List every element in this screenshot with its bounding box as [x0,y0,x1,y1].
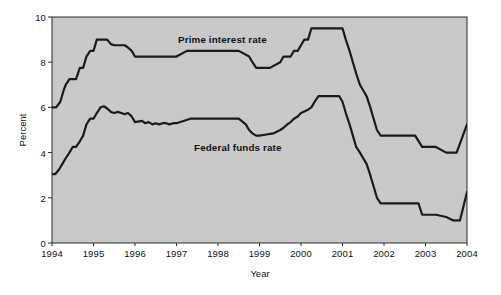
chart-figure: 0246810 19941995199619971998199920002001… [0,0,501,295]
x-axis-title: Year [250,268,269,279]
x-axis-tick-label: 2001 [332,248,354,259]
x-axis-tick-label: 1999 [249,248,271,259]
y-axis-tick-label: 0 [26,238,46,249]
x-axis-tick-label: 1994 [41,248,63,259]
y-axis-tick-label: 4 [26,147,46,158]
x-axis-tick-label: 1996 [124,248,146,259]
series-label-federal-funds-rate: Federal funds rate [194,142,282,153]
y-axis-tick-label: 8 [26,57,46,68]
x-axis-tick-label: 2000 [290,248,312,259]
series-label-prime-interest-rate: Prime interest rate [178,34,267,45]
plot-background [52,17,467,243]
y-axis-tick-marks [48,17,52,243]
y-axis-tick-label: 6 [26,102,46,113]
y-axis-title: Percent [17,114,28,147]
x-axis-tick-label: 1997 [166,248,188,259]
x-axis-tick-label: 2002 [373,248,395,259]
y-axis-tick-label: 10 [26,12,46,23]
x-axis-tick-label: 2004 [456,248,478,259]
x-axis-tick-label: 1998 [207,248,229,259]
x-axis-tick-label: 2003 [415,248,437,259]
y-axis-tick-label: 2 [26,192,46,203]
x-axis-tick-label: 1995 [83,248,105,259]
